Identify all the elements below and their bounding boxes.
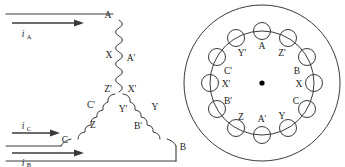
- current-arrow-b-head: [74, 150, 84, 157]
- coil-label-bprime: B': [134, 121, 142, 131]
- current-arrow-a-head: [74, 20, 84, 27]
- diagram-svg: A B C X A' Z' X' C' Y' Y Z B' i A i C i …: [0, 0, 345, 167]
- current-subscript-b: B: [27, 161, 32, 167]
- terminal-label-c: C: [62, 135, 68, 145]
- slot-label-xprime: X': [222, 79, 231, 89]
- coil-label-yprime: Y': [119, 104, 128, 114]
- slot-label-bprime: B': [224, 96, 232, 106]
- slot-label-c: C: [293, 96, 299, 106]
- current-label-b: i B: [22, 158, 32, 167]
- coil-label-zprime: Z': [104, 84, 112, 94]
- terminal-label-a: A: [105, 10, 112, 20]
- slot-label-cprime: C': [224, 66, 232, 76]
- slot-label-aprime: A': [258, 114, 267, 124]
- coil-label-z: Z: [90, 120, 96, 130]
- slot-label-zprime: Z': [278, 48, 286, 58]
- coil-yprime-bprime: [123, 94, 160, 139]
- coil-b-tail: [167, 139, 176, 146]
- slot-label-b: B: [294, 66, 300, 76]
- current-subscript-a: A: [27, 33, 32, 40]
- shaft-center-dot: [259, 80, 264, 85]
- slot-label-y: Y: [279, 111, 286, 121]
- current-arrow-c-head: [50, 130, 60, 137]
- coil-cprime-z: [78, 94, 115, 139]
- coil-label-y: Y: [152, 102, 159, 112]
- coil-label-cprime: C': [87, 100, 95, 110]
- slot-label-z: Z: [238, 112, 244, 122]
- coil-label-aprime: A': [127, 53, 136, 63]
- slot-label-x: X: [296, 79, 303, 89]
- current-symbol-b: i: [22, 158, 25, 167]
- slot-label-yprime: Y': [238, 48, 247, 58]
- figure-canvas: A B C X A' Z' X' C' Y' Y Z B' i A i C i …: [0, 0, 345, 167]
- current-label-c: i C: [22, 121, 31, 132]
- coil-label-xprime: X': [128, 84, 137, 94]
- coil-a-aprime: [116, 20, 123, 92]
- current-label-a: i A: [22, 29, 32, 40]
- slot-label-a: A: [259, 41, 266, 51]
- current-symbol-c: i: [22, 121, 25, 131]
- coil-label-x: X: [106, 50, 113, 60]
- current-symbol-a: i: [22, 29, 25, 39]
- current-subscript-c: C: [27, 125, 31, 132]
- terminal-label-b: B: [180, 142, 186, 152]
